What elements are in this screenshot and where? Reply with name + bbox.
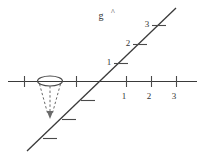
- diagonal-axis-label-2: 2: [126, 38, 131, 48]
- axis-name-g: g: [99, 10, 104, 21]
- math-figure: 1 2 3 1 2 3 g ^: [0, 0, 205, 156]
- cone-dash-right: [53, 84, 61, 113]
- hat-accent-icon: ^: [111, 8, 115, 17]
- cone-dash-left: [40, 84, 48, 113]
- diagonal-axis-label-1: 1: [107, 57, 112, 67]
- diagonal-axis-label-3: 3: [145, 19, 150, 29]
- down-arrow-icon: [47, 111, 53, 119]
- x-axis-label-3: 3: [172, 91, 177, 101]
- x-axis-label-1: 1: [122, 91, 127, 101]
- diagonal-axis-line: [27, 8, 176, 151]
- x-axis-label-2: 2: [147, 91, 152, 101]
- figure-canvas: 1 2 3 1 2 3 g ^: [0, 0, 205, 156]
